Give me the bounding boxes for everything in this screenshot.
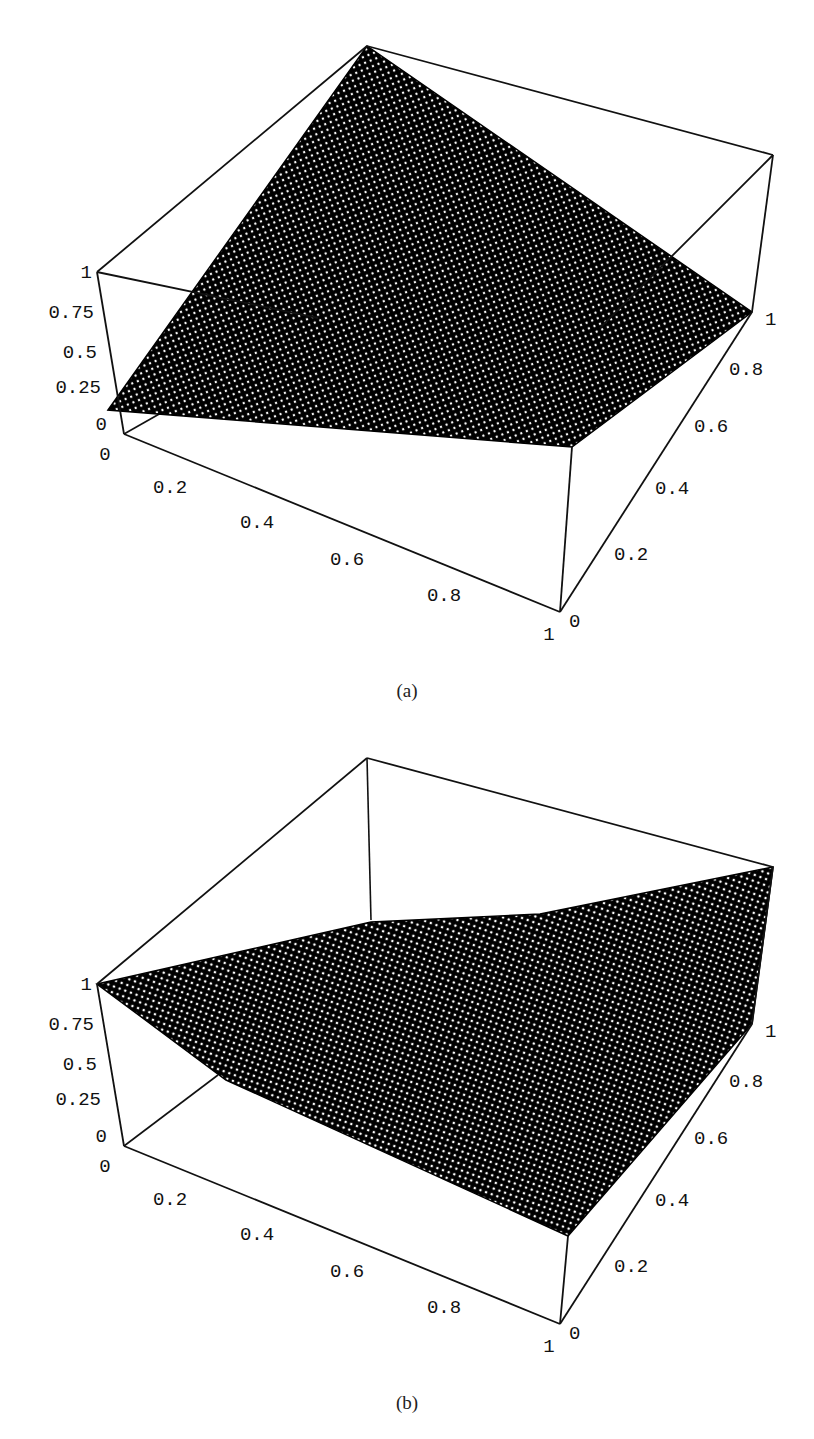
x-tick-0.8: 0.8 [427, 585, 461, 607]
caption-b: (b) [0, 1392, 814, 1414]
x-tick-1: 1 [543, 1336, 554, 1358]
caption-a: (a) [0, 680, 814, 702]
y-tick-0: 0 [569, 1323, 580, 1345]
z-axis-ticks: 1 0.75 0.5 0.25 0 [48, 974, 107, 1148]
z-tick-1: 1 [81, 974, 92, 996]
x-tick-1: 1 [543, 624, 554, 646]
x-tick-0.2: 0.2 [153, 1189, 187, 1211]
z-tick-1: 1 [81, 262, 92, 284]
x-tick-0.4: 0.4 [240, 512, 274, 534]
surface-plot-a: 1 0.75 0.5 0.25 0 0 0.2 0.4 0.6 0.8 1 0 … [0, 0, 814, 712]
z-tick-0.75: 0.75 [48, 1014, 94, 1036]
y-tick-0.4: 0.4 [655, 1190, 689, 1212]
z-tick-0.75: 0.75 [48, 302, 94, 324]
y-tick-0.2: 0.2 [614, 1256, 648, 1278]
x-tick-0: 0 [99, 444, 110, 466]
y-tick-0.8: 0.8 [729, 1071, 763, 1093]
figure-a: 1 0.75 0.5 0.25 0 0 0.2 0.4 0.6 0.8 1 0 … [0, 0, 814, 712]
x-axis-ticks: 0 0.2 0.4 0.6 0.8 1 [99, 444, 554, 646]
y-tick-0: 0 [569, 611, 580, 633]
y-tick-1: 1 [765, 309, 776, 331]
z-tick-0.25: 0.25 [55, 377, 101, 399]
y-tick-0.2: 0.2 [614, 544, 648, 566]
z-tick-0.5: 0.5 [63, 1054, 97, 1076]
z-tick-0: 0 [96, 1126, 107, 1148]
surface-mesh [108, 46, 752, 447]
y-tick-0.8: 0.8 [729, 359, 763, 381]
z-tick-0.25: 0.25 [55, 1089, 101, 1111]
y-tick-0.4: 0.4 [655, 478, 689, 500]
z-tick-0.5: 0.5 [63, 342, 97, 364]
z-axis-ticks: 1 0.75 0.5 0.25 0 [48, 262, 107, 436]
y-tick-1: 1 [765, 1021, 776, 1043]
x-tick-0.6: 0.6 [330, 549, 364, 571]
x-tick-0: 0 [99, 1156, 110, 1178]
x-tick-0.2: 0.2 [153, 477, 187, 499]
surface-mesh [97, 867, 773, 1236]
z-tick-0: 0 [96, 414, 107, 436]
figure-b: 1 0.75 0.5 0.25 0 0 0.2 0.4 0.6 0.8 1 0 … [0, 712, 814, 1439]
x-tick-0.6: 0.6 [330, 1261, 364, 1283]
y-tick-0.6: 0.6 [694, 416, 728, 438]
x-tick-0.4: 0.4 [240, 1224, 274, 1246]
y-tick-0.6: 0.6 [694, 1128, 728, 1150]
x-tick-0.8: 0.8 [427, 1297, 461, 1319]
surface-plot-b: 1 0.75 0.5 0.25 0 0 0.2 0.4 0.6 0.8 1 0 … [0, 712, 814, 1439]
